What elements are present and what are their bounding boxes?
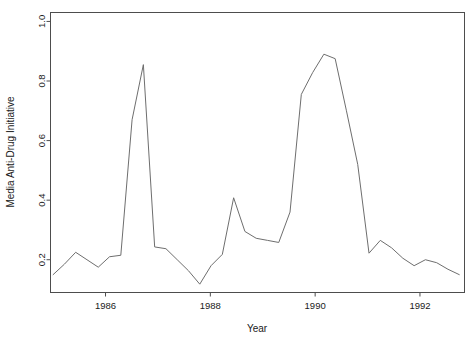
x-axis-ticks: [106, 293, 420, 297]
x-axis-title: Year: [247, 323, 268, 334]
y-tick-label: 0.4: [36, 194, 47, 207]
chart-figure: 0.20.40.60.81.0 1986198819901992 Year Me…: [0, 0, 475, 343]
plot-frame: [51, 13, 465, 293]
y-tick-label: 1.0: [36, 15, 47, 28]
x-tick-label: 1990: [305, 300, 326, 311]
y-tick-label: 0.6: [36, 134, 47, 147]
x-tick-label: 1988: [200, 300, 221, 311]
x-tick-label: 1986: [95, 300, 116, 311]
y-axis-tick-labels: 0.20.40.60.81.0: [36, 15, 47, 267]
y-axis-title: Media Anti-Drug Initiative: [5, 96, 16, 208]
data-series-group: [53, 54, 459, 284]
y-axis-ticks: [47, 21, 51, 259]
y-tick-label: 0.8: [36, 74, 47, 87]
line-chart: 0.20.40.60.81.0 1986198819901992 Year Me…: [0, 0, 475, 343]
x-tick-label: 1992: [409, 300, 430, 311]
x-axis-tick-labels: 1986198819901992: [95, 300, 431, 311]
y-tick-label: 0.2: [36, 253, 47, 266]
series-line: [53, 54, 459, 284]
